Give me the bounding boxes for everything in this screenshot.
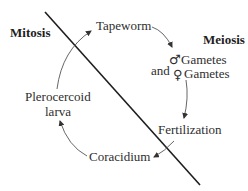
arrow-fertilization-to-coracidium (154, 141, 174, 157)
tapeworm-label: Tapeworm (96, 19, 151, 32)
fertilization-label: Fertilization (158, 123, 222, 136)
female-gametes-label: Gametes (184, 67, 229, 80)
coracidium-label: Coracidium (89, 150, 150, 163)
arrow-gametes-to-fertilization (184, 80, 187, 118)
mitosis-label: Mitosis (10, 26, 50, 39)
plerocercoid-label-line1: Plerocercoid (25, 90, 91, 103)
female-symbol-icon: ♀ (173, 68, 183, 81)
arrow-plerocercoid-to-tapeworm (57, 31, 91, 89)
male-symbol-icon: ♂ (169, 53, 181, 66)
plerocercoid-label-line2: larva (45, 105, 71, 118)
arrow-tapeworm-to-gametes (152, 27, 172, 47)
and-label: and (151, 64, 170, 77)
male-gametes-label: Gametes (181, 53, 226, 66)
meiosis-label: Meiosis (203, 33, 245, 46)
arrow-coracidium-to-plerocercoid (60, 121, 87, 156)
